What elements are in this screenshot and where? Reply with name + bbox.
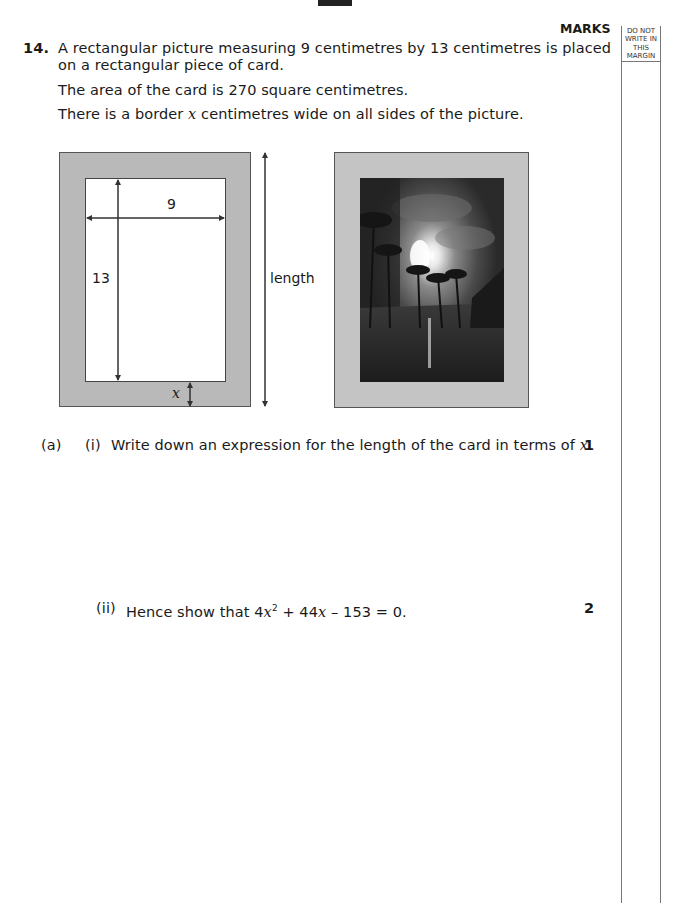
equation-part: 4	[254, 604, 263, 620]
text-segment: Hence show that	[126, 604, 254, 620]
part-a-label: (a)	[41, 437, 62, 454]
width-label: 9	[167, 196, 176, 212]
border-width-label: x	[172, 385, 180, 401]
equation-part: – 153 = 0.	[326, 604, 406, 620]
subpart-i-label: (i)	[85, 437, 101, 454]
subpart-i-text: Write down an expression for the length …	[111, 437, 593, 454]
length-label: length	[270, 270, 315, 286]
height-label: 13	[92, 270, 110, 286]
math-variable: x	[264, 604, 272, 620]
marks-value: 2	[584, 600, 594, 616]
marks-value: 1	[584, 437, 594, 453]
equation-part: + 44	[278, 604, 318, 620]
subpart-ii-text: Hence show that 4x2 + 44x – 153 = 0.	[126, 600, 407, 621]
tropical-night-photo	[360, 178, 504, 382]
photo-image	[360, 178, 504, 382]
text-segment: Write down an expression for the length …	[111, 437, 580, 453]
subpart-ii-label: (ii)	[96, 600, 116, 617]
